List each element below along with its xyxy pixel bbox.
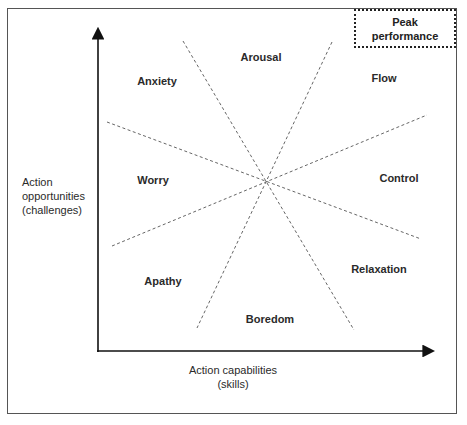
y-axis-label-line3: (challenges) bbox=[22, 203, 85, 217]
peak-performance-box: Peak performance bbox=[354, 9, 456, 48]
peak-box-line1: Peak bbox=[392, 15, 418, 29]
peak-box-line2: performance bbox=[372, 29, 439, 43]
region-worry: Worry bbox=[137, 174, 169, 186]
region-apathy: Apathy bbox=[144, 275, 181, 287]
x-axis-label: Action capabilities (skills) bbox=[189, 363, 277, 391]
region-boredom: Boredom bbox=[246, 313, 294, 325]
region-arousal: Arousal bbox=[241, 51, 282, 63]
divider-line-2 bbox=[197, 42, 332, 328]
divider-line-1 bbox=[183, 41, 354, 330]
y-axis-label-line1: Action bbox=[22, 175, 85, 189]
x-axis-label-line1: Action capabilities bbox=[189, 363, 277, 377]
region-anxiety: Anxiety bbox=[137, 75, 177, 87]
region-control: Control bbox=[379, 172, 418, 184]
region-relaxation: Relaxation bbox=[351, 263, 407, 275]
region-flow: Flow bbox=[371, 72, 396, 84]
x-axis-label-line2: (skills) bbox=[189, 377, 277, 391]
y-axis-label-line2: opportunities bbox=[22, 189, 85, 203]
y-axis-label: Action opportunities (challenges) bbox=[22, 175, 85, 217]
